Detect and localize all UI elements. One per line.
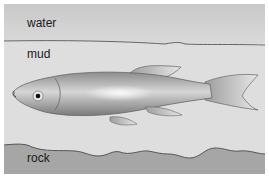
mud-label: mud (27, 48, 50, 60)
rock-label: rock (27, 152, 50, 164)
water-label: water (27, 17, 56, 29)
sediment-diagram: water mud rock (0, 0, 269, 178)
